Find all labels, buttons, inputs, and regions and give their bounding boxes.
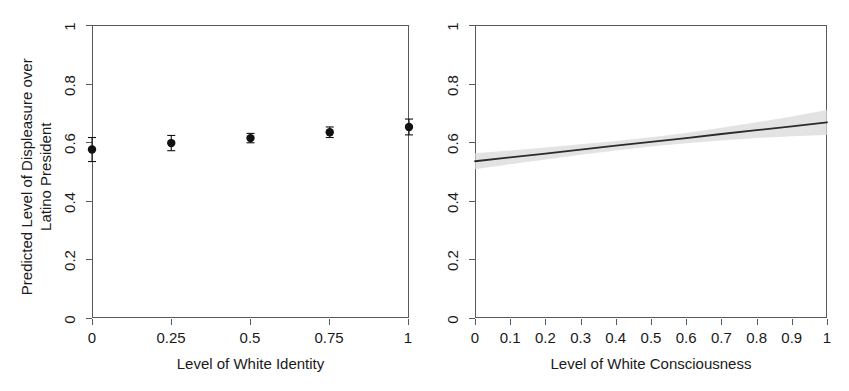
x-tick-right-0.3 [581, 319, 582, 325]
x-axis-title-left: Level of White Identity [92, 355, 409, 374]
x-tick-left-0.5 [250, 319, 251, 325]
x-tick-right-0.5 [651, 319, 652, 325]
scatter-plot-left [92, 25, 409, 318]
x-tick-right-0.4 [616, 319, 617, 325]
y-ticklabel-left-0.8: 0.8 [62, 66, 77, 106]
x-tick-right-0.9 [792, 319, 793, 325]
y-ticklabel-right-0.6: 0.6 [445, 124, 460, 164]
data-point-group [405, 119, 413, 135]
x-axis-title-right: Level of White Consciousness [475, 355, 827, 374]
x-tick-right-0.7 [721, 319, 722, 325]
y-ticklabel-right-0.2: 0.2 [445, 241, 460, 281]
x-tick-right-0.6 [686, 319, 687, 325]
data-point-marker [246, 134, 254, 142]
data-point-group [246, 133, 254, 142]
x-ticklabel-left-0.5: 0.5 [220, 330, 280, 345]
x-tick-left-1 [408, 319, 409, 325]
confidence-band [475, 110, 827, 169]
y-ticklabel-left-0.4: 0.4 [62, 183, 77, 223]
x-tick-right-0.1 [510, 319, 511, 325]
y-ticklabel-right-0.8: 0.8 [445, 66, 460, 106]
line-plot-right [475, 25, 827, 318]
x-ticklabel-left-0.25: 0.25 [141, 330, 201, 345]
data-layer-left [92, 25, 409, 318]
x-tick-right-1 [827, 319, 828, 325]
data-point-marker [88, 145, 96, 153]
data-point-marker [405, 123, 413, 131]
figure-canvas: Predicted Level of Displeasure over Lati… [0, 0, 849, 391]
x-ticklabel-left-0.75: 0.75 [299, 330, 359, 345]
y-ticklabel-left-0.2: 0.2 [62, 241, 77, 281]
x-tick-right-0 [475, 319, 476, 325]
data-layer-right [475, 25, 827, 318]
y-axis-title-left: Predicted Level of Displeasure over Lati… [18, 27, 56, 327]
x-ticklabel-left-0: 0 [62, 330, 122, 345]
data-point-group [167, 135, 175, 150]
x-tick-left-0.75 [329, 319, 330, 325]
x-tick-right-0.2 [545, 319, 546, 325]
data-point-marker [167, 139, 175, 147]
x-ticklabel-right-1: 1 [802, 330, 849, 345]
x-tick-right-0.8 [757, 319, 758, 325]
panel-right-white-consciousness: 0 0.2 0.4 0.6 0.8 1 00.10.20.30.40.50.60… [425, 0, 849, 391]
y-ticklabel-right-1: 1 [445, 7, 460, 47]
data-point-group [326, 127, 334, 138]
data-point-marker [326, 128, 334, 136]
fit-line [475, 122, 827, 161]
y-ticklabel-right-0.4: 0.4 [445, 183, 460, 223]
panel-left-white-identity: Predicted Level of Displeasure over Lati… [0, 0, 425, 391]
y-ticklabel-left-1: 1 [62, 7, 77, 47]
y-ticklabel-left-0.6: 0.6 [62, 124, 77, 164]
x-tick-left-0.25 [171, 319, 172, 325]
x-tick-left-0 [92, 319, 93, 325]
